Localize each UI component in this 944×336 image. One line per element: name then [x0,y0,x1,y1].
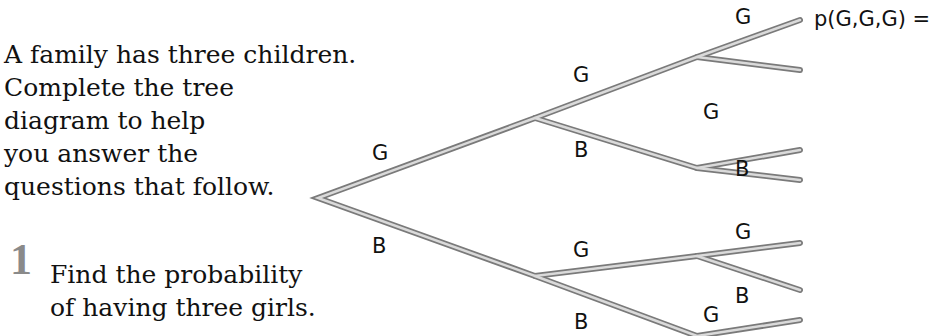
branch-label-bb: B [574,312,588,333]
branch-label-b1: B [372,236,386,257]
branch-label-gbb: B [735,159,749,180]
branch-label-bbg: G [703,305,719,326]
branch-label-bgb: B [735,286,749,307]
branch-label-bg: G [573,240,589,261]
result-ggg: p(G,G,G) = [814,7,930,31]
branch-label-gg: G [573,65,589,86]
branch-label-gb: B [574,140,588,161]
branch-label-bgg: G [735,222,751,243]
branch-label-ggg: G [735,7,751,28]
branch-label-gbg: G [703,102,719,123]
tree-diagram [0,0,944,336]
branch-label-g1: G [372,143,388,164]
